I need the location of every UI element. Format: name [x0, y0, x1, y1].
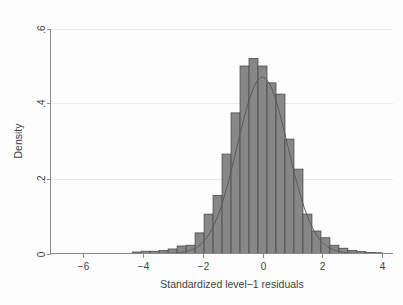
histogram-bar [204, 214, 213, 253]
y-tick-label: 0 [36, 251, 47, 257]
histogram-bar [267, 83, 276, 254]
y-axis-title: Density [12, 123, 24, 159]
histogram-bar [231, 113, 240, 254]
histogram-bar [222, 154, 231, 253]
histogram-bar [240, 66, 249, 254]
histogram-figure: −6−4−2024 0.2.4.6 Standardized level−1 r… [0, 0, 403, 305]
histogram-bar [294, 169, 303, 253]
y-tick-label: .6 [36, 25, 47, 34]
histogram-bar [303, 214, 312, 253]
x-axis-title: Standardized level−1 residuals [160, 278, 303, 290]
chart-canvas: −6−4−2024 0.2.4.6 Standardized level−1 r… [0, 0, 403, 305]
histogram-bars [132, 59, 382, 254]
x-tick-label: 2 [320, 261, 326, 272]
y-tick-label: .4 [36, 99, 47, 108]
x-tick-label: 0 [261, 261, 267, 272]
x-axis-ticks: −6−4−2024 [78, 254, 386, 272]
x-tick-label: −4 [138, 261, 150, 272]
histogram-bar [285, 139, 294, 253]
histogram-bar [258, 66, 267, 254]
y-axis-ticks: 0.2.4.6 [36, 25, 51, 257]
x-tick-label: −6 [78, 261, 90, 272]
y-tick-label: .2 [36, 175, 47, 184]
histogram-bar [195, 233, 204, 254]
x-tick-label: 4 [380, 261, 386, 272]
x-tick-label: −2 [198, 261, 210, 272]
